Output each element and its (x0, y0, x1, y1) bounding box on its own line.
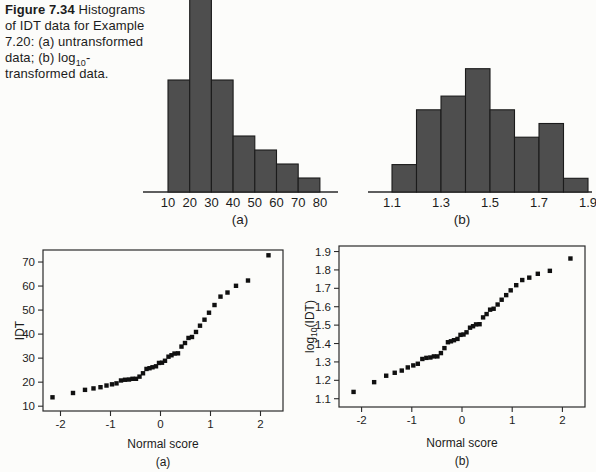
y-axis-label: IDT (13, 320, 27, 340)
data-point (163, 359, 167, 363)
x-tick-label: 70 (291, 195, 305, 210)
data-point (266, 253, 270, 257)
histogram-bar (298, 178, 320, 192)
histogram-bar (233, 136, 255, 192)
y-tick-label: 1.1 (315, 393, 331, 405)
data-point (225, 290, 229, 294)
x-tick-label: 1 (207, 418, 213, 430)
y-tick-label: 1.9 (315, 246, 331, 258)
x-tick-label: 1.9 (579, 195, 596, 210)
x-tick-label: 30 (204, 195, 218, 210)
data-point (104, 383, 108, 387)
data-point (420, 357, 424, 361)
histogram-log-transformed: 1.11.31.51.71.9(b) (360, 0, 596, 232)
data-point (520, 278, 524, 282)
histogram-untransformed: 1020304050607080(a) (138, 0, 345, 232)
data-point (568, 256, 572, 260)
panel-label: (a) (156, 455, 171, 469)
histogram-bar (539, 124, 564, 193)
data-point (372, 380, 376, 384)
data-point (442, 346, 446, 350)
data-point (439, 351, 443, 355)
y-tick-label: 50 (22, 304, 35, 316)
normal-plot-idt: -2-101210203040506070Normal score(a)IDT (8, 238, 300, 472)
data-point (212, 303, 216, 307)
data-point (499, 298, 503, 302)
data-point (477, 322, 481, 326)
x-tick-label: 1.3 (432, 195, 450, 210)
x-tick-label: 2 (559, 414, 565, 426)
x-tick-label: 1.1 (383, 195, 401, 210)
data-point (351, 390, 355, 394)
figure-7-34: Figure 7.34 Histograms of IDT data for E… (0, 0, 596, 472)
data-point (119, 378, 123, 382)
data-point (123, 378, 127, 382)
figure-caption: Figure 7.34 Histograms of IDT data for E… (5, 2, 151, 82)
x-tick-label: -1 (407, 414, 417, 426)
data-point (424, 356, 428, 360)
y-tick-label: 30 (22, 352, 35, 364)
y-tick-label: 1.2 (315, 374, 331, 386)
histogram-bar (277, 164, 299, 192)
y-tick-label: 60 (22, 280, 35, 292)
data-point (50, 395, 54, 399)
data-point (83, 388, 87, 392)
y-axis-label: log10(IDT) (303, 300, 319, 353)
data-point (234, 284, 238, 288)
data-point (218, 294, 222, 298)
data-point (495, 302, 499, 306)
x-tick-label: 50 (248, 195, 262, 210)
x-tick-label: 1.5 (481, 195, 499, 210)
panel-label: (b) (454, 212, 471, 227)
data-point (110, 382, 114, 386)
x-tick-label: 20 (182, 195, 196, 210)
data-point (548, 269, 552, 273)
panel-label: (a) (232, 212, 249, 227)
x-tick-label: 10 (161, 195, 175, 210)
data-point (190, 335, 194, 339)
y-tick-label: 70 (22, 256, 35, 268)
data-point (246, 278, 250, 282)
histogram-bar (441, 96, 466, 192)
y-tick-label: 1.7 (315, 282, 331, 294)
data-point (491, 307, 495, 311)
data-point (183, 341, 187, 345)
y-tick-label: 1.6 (315, 301, 331, 313)
data-point (536, 272, 540, 276)
panel-label: (b) (455, 454, 470, 468)
histogram-bar (515, 137, 540, 192)
data-point (194, 330, 198, 334)
data-point (484, 312, 488, 316)
x-tick-label: 60 (269, 195, 283, 210)
x-tick-label: 1.7 (530, 195, 548, 210)
data-point (114, 381, 118, 385)
data-point (400, 368, 404, 372)
data-point (202, 317, 206, 321)
histogram-bar (168, 80, 190, 192)
histogram-bar (564, 178, 589, 192)
data-point (411, 363, 415, 367)
x-axis-label: Normal score (426, 436, 498, 450)
x-tick-label: 2 (257, 418, 263, 430)
histogram-bar (466, 69, 491, 192)
x-tick-label: 0 (459, 414, 465, 426)
y-tick-label: 1.4 (315, 338, 332, 350)
x-tick-label: 1 (509, 414, 515, 426)
data-point (176, 351, 180, 355)
x-tick-label: -2 (356, 414, 366, 426)
data-point (406, 365, 410, 369)
data-point (416, 362, 420, 366)
x-axis-label: Normal score (127, 437, 199, 451)
x-tick-label: 40 (226, 195, 240, 210)
histogram-bar (417, 110, 442, 192)
data-point (504, 293, 508, 297)
histogram-bar (190, 0, 212, 192)
histogram-bar (211, 80, 233, 192)
data-point (91, 386, 95, 390)
data-point (207, 311, 211, 315)
x-tick-label: -1 (105, 418, 115, 430)
normal-plot-log-idt: -2-10121.11.21.31.41.51.61.71.81.9Normal… (300, 238, 596, 472)
data-point (393, 371, 397, 375)
data-point (384, 374, 388, 378)
data-point (71, 391, 75, 395)
